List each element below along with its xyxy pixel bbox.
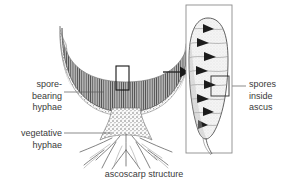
label-spore-bearing-line-2: bearing <box>6 91 62 103</box>
label-vegetative-line-2: hyphae <box>2 140 62 152</box>
label-spores-ascus-line-2: inside <box>249 91 288 103</box>
label-spores-ascus-line-3: ascus <box>249 102 288 114</box>
inset-panel <box>186 5 232 155</box>
label-spore-bearing-line-3: hyphae <box>6 102 62 114</box>
figure-caption: ascoscarp structure <box>0 169 288 179</box>
label-spores-inside-ascus: spores inside ascus <box>249 79 288 114</box>
label-vegetative-line-1: vegetative <box>2 128 62 140</box>
label-vegetative-hyphae: vegetative hyphae <box>2 128 62 151</box>
label-spore-bearing-hyphae: spore- bearing hyphae <box>6 79 62 114</box>
label-spores-ascus-line-1: spores <box>249 79 288 91</box>
figure-ascocarp-structure: spore- bearing hyphae vegetative hyphae … <box>0 0 288 186</box>
hymenium-layer <box>58 24 194 116</box>
vegetative-hyphae-roots <box>80 134 172 169</box>
label-spore-bearing-line-1: spore- <box>6 79 62 91</box>
ascocarp-drawing <box>58 24 194 169</box>
